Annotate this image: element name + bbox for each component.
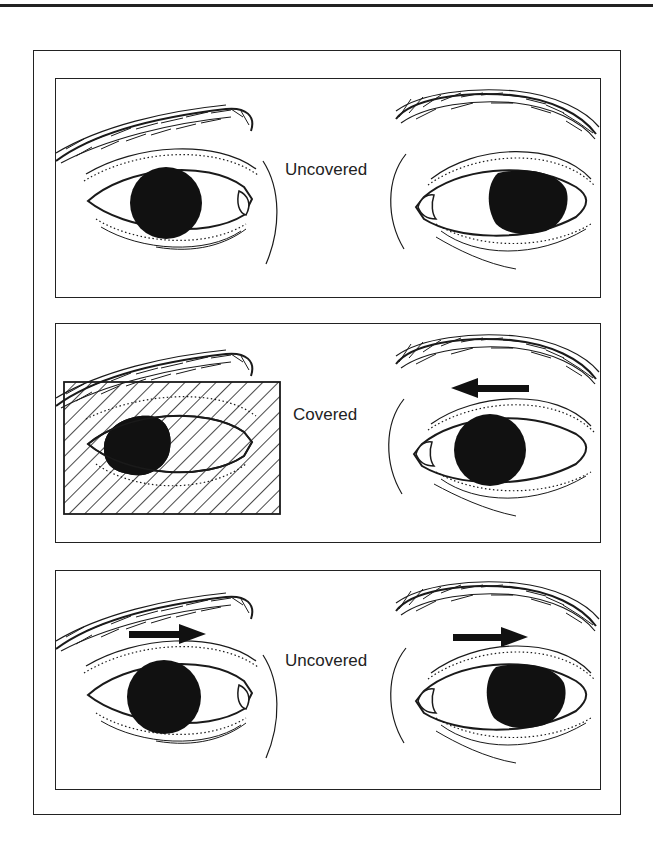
panel-covered: Covered xyxy=(55,323,601,543)
arrow-right-icon-2 xyxy=(453,627,528,647)
left-eye-icon xyxy=(84,641,277,758)
eyes-illustration xyxy=(56,571,601,790)
panel-label: Covered xyxy=(293,405,357,425)
right-eye-icon xyxy=(389,399,594,516)
top-rule xyxy=(0,4,653,7)
right-eyebrow-icon xyxy=(396,335,599,384)
panel-label: Uncovered xyxy=(285,160,367,180)
arrow-left-icon xyxy=(451,378,529,398)
panel-label: Uncovered xyxy=(285,651,367,671)
left-eye-icon xyxy=(84,149,277,264)
occluder-card-icon xyxy=(64,382,280,514)
eyes-illustration xyxy=(56,79,601,298)
right-eyebrow-icon xyxy=(396,582,599,631)
right-eye-icon xyxy=(391,646,594,763)
right-eye-icon xyxy=(391,152,594,269)
panel-uncovered-2: Uncovered xyxy=(55,570,601,790)
right-eyebrow-icon xyxy=(396,90,599,139)
eyes-illustration xyxy=(56,324,601,543)
panel-uncovered-1: Uncovered xyxy=(55,78,601,298)
